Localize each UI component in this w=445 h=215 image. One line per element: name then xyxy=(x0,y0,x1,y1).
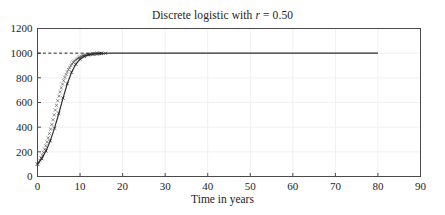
data-marker xyxy=(54,109,57,112)
x-tick-label: 20 xyxy=(117,180,129,192)
data-marker xyxy=(48,132,51,135)
data-marker xyxy=(49,128,52,131)
x-tick-label: 40 xyxy=(202,180,214,192)
data-marker xyxy=(47,136,50,139)
data-marker xyxy=(62,79,65,82)
data-marker xyxy=(43,148,46,151)
x-tick-label: 70 xyxy=(330,180,342,192)
data-marker xyxy=(59,90,62,93)
x-tick-label: 50 xyxy=(245,180,257,192)
y-tick-label: 200 xyxy=(16,146,33,158)
data-marker xyxy=(56,99,59,102)
y-tick-label: 600 xyxy=(16,96,33,108)
x-axis-tick-labels: 0102030405060708090 xyxy=(35,180,427,192)
data-marker xyxy=(50,123,53,126)
y-tick-label: 0 xyxy=(27,170,33,182)
plot-area: 020040060080010001200 010203040506070809… xyxy=(0,0,445,215)
x-tick-label: 0 xyxy=(35,180,41,192)
data-marker xyxy=(45,140,48,143)
y-tick-label: 800 xyxy=(16,72,33,84)
gridlines xyxy=(38,29,421,177)
x-tick-label: 30 xyxy=(160,180,172,192)
data-marker xyxy=(51,118,54,121)
chart-figure: Discrete logistic with r = 0.50 02004006… xyxy=(0,0,445,215)
x-tick-label: 90 xyxy=(415,180,427,192)
data-marker xyxy=(44,144,47,147)
y-tick-label: 1000 xyxy=(11,47,34,59)
data-marker xyxy=(57,95,60,98)
data-marker xyxy=(53,113,56,116)
x-tick-label: 10 xyxy=(75,180,87,192)
y-tick-label: 1200 xyxy=(11,22,34,34)
data-marker xyxy=(55,104,58,107)
data-marker xyxy=(61,83,64,86)
y-axis-tick-labels: 020040060080010001200 xyxy=(11,22,34,182)
y-tick-label: 400 xyxy=(16,121,33,133)
x-axis-label: Time in years xyxy=(0,193,445,205)
x-tick-label: 60 xyxy=(287,180,299,192)
x-tick-label: 80 xyxy=(372,180,384,192)
data-marker xyxy=(60,86,63,89)
